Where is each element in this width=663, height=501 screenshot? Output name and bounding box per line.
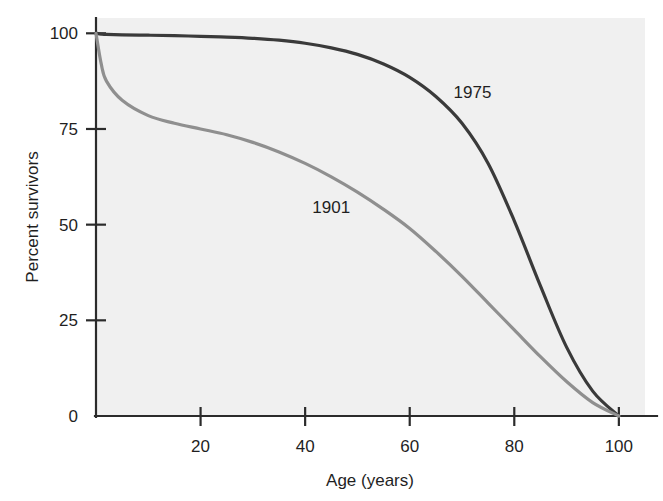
- x-tick-label: 20: [191, 437, 210, 456]
- x-tick-label: 60: [400, 437, 419, 456]
- y-tick-label: 100: [50, 24, 78, 43]
- y-tick-label: 0: [69, 407, 78, 426]
- x-tick-label: 100: [605, 437, 633, 456]
- y-tick-label: 75: [59, 120, 78, 139]
- series-label-1975: 1975: [454, 83, 492, 102]
- x-axis-title: Age (years): [326, 471, 414, 490]
- chart-page: 0255075100 20406080100 19751901 Age (yea…: [0, 0, 663, 501]
- y-axis-title: Percent survivors: [23, 151, 42, 282]
- plot-background: [96, 18, 645, 416]
- survival-curve-chart: 0255075100 20406080100 19751901 Age (yea…: [0, 0, 663, 501]
- y-tick-label: 50: [59, 216, 78, 235]
- series-label-1901: 1901: [312, 198, 350, 217]
- y-tick-label: 25: [59, 311, 78, 330]
- x-tick-label: 80: [505, 437, 524, 456]
- x-tick-label: 40: [296, 437, 315, 456]
